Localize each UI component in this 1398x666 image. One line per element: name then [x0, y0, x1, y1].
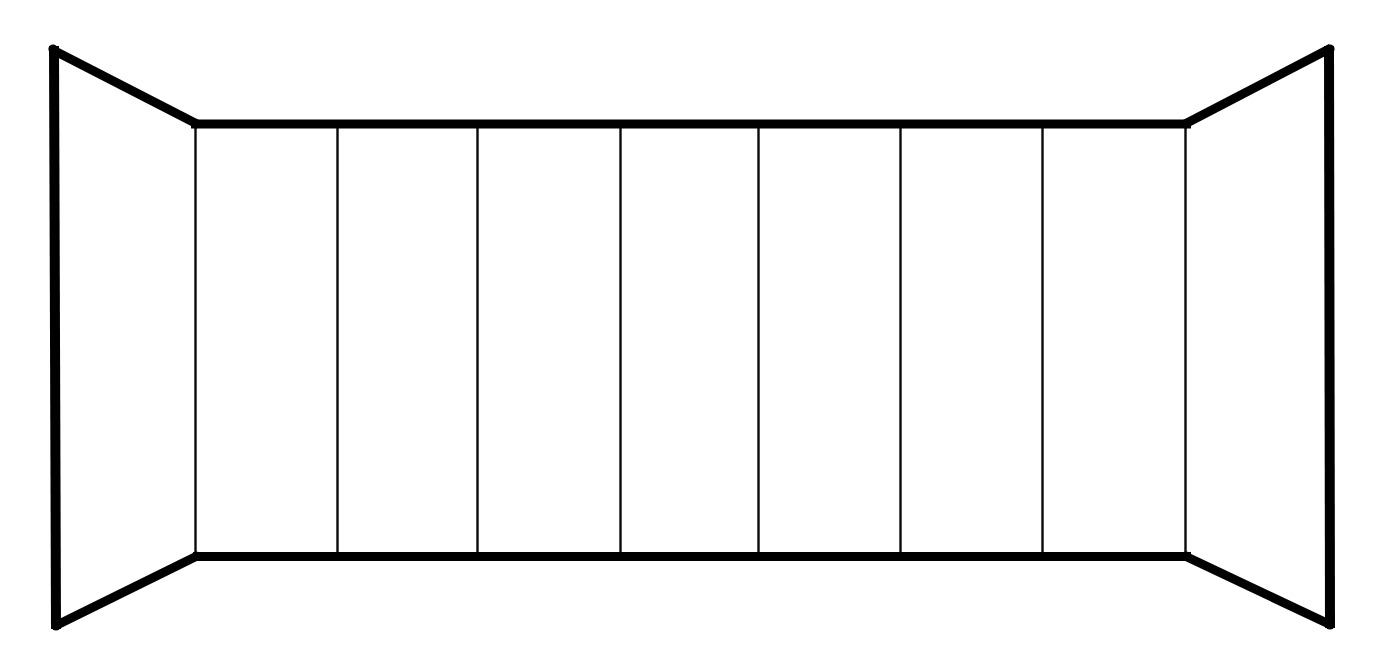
corner-joint-inner-top-left [192, 120, 201, 129]
corner-joint-bottom-right [1325, 620, 1334, 629]
corner-joint-inner-bottom-left [192, 552, 201, 561]
back-wall-face [195, 124, 1187, 556]
diagram-canvas [0, 0, 1398, 666]
corner-joint-bottom-left [51, 621, 60, 630]
corner-joint-top-left [48, 44, 57, 53]
corner-joint-top-right [1325, 44, 1334, 53]
left-outer-vertical-edge [54, 46, 56, 629]
corner-joint-inner-bottom-right [1182, 552, 1191, 561]
left-side-wall-face [50, 48, 196, 627]
perspective-corridor-svg [0, 0, 1398, 666]
right-side-wall-face [1186, 48, 1332, 626]
corner-joint-inner-top-right [1182, 120, 1191, 129]
right-outer-vertical-edge [1329, 46, 1330, 628]
